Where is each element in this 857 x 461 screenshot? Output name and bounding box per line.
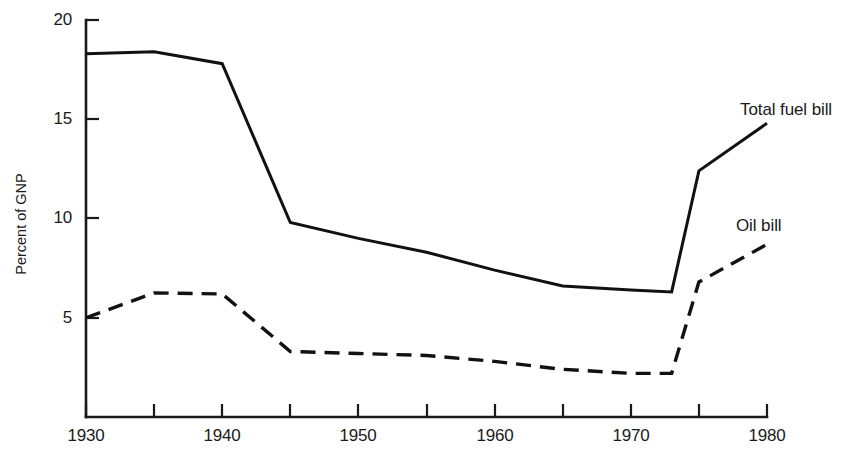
series-line-oil-bill	[86, 244, 767, 373]
y-axis-title: Percent of GNP	[13, 154, 29, 294]
chart-figure: Percent of GNP 20 15 10 5 1930 1940 1950…	[0, 0, 857, 461]
x-tick-label-1980: 1980	[727, 426, 807, 446]
y-tick-label-15: 15	[30, 109, 72, 129]
x-tick-label-1950: 1950	[318, 426, 398, 446]
series-annotation-oil-bill: Oil bill	[736, 216, 782, 236]
x-tick-label-1930: 1930	[46, 426, 126, 446]
chart-plot-area	[0, 0, 857, 461]
y-axis-ticks	[86, 20, 99, 318]
x-tick-label-1940: 1940	[182, 426, 262, 446]
x-tick-label-1970: 1970	[591, 426, 671, 446]
series-line-total-fuel-bill	[86, 52, 767, 292]
series-annotation-total-fuel-bill: Total fuel bill	[740, 100, 832, 120]
x-axis-ticks	[86, 404, 767, 417]
y-tick-label-10: 10	[30, 208, 72, 228]
y-tick-label-20: 20	[30, 10, 72, 30]
x-tick-label-1960: 1960	[455, 426, 535, 446]
y-tick-label-5: 5	[30, 308, 72, 328]
